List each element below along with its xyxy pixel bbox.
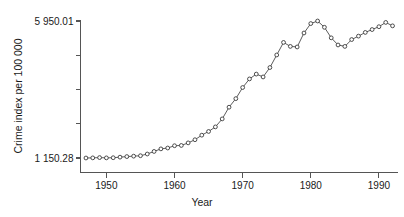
data-point-marker: [152, 150, 156, 154]
data-point-marker: [186, 141, 190, 145]
y-tick-label: 1 150.28: [35, 153, 74, 164]
data-point-marker: [295, 45, 299, 49]
data-point-marker: [261, 75, 265, 79]
data-point-marker: [282, 41, 286, 45]
data-point-marker: [166, 146, 170, 150]
data-point-marker: [370, 28, 374, 32]
data-point-marker: [84, 156, 88, 160]
x-axis-title: Year: [191, 196, 213, 208]
data-point-marker: [111, 156, 115, 160]
data-point-marker: [91, 156, 95, 160]
data-point-marker: [357, 34, 361, 38]
data-point-marker: [254, 72, 258, 76]
data-point-marker: [268, 66, 272, 70]
data-point-marker: [329, 36, 333, 40]
data-point-marker: [179, 144, 183, 148]
x-axis-ticks: [106, 173, 379, 178]
data-point-marker: [302, 31, 306, 35]
data-point-marker: [343, 45, 347, 49]
data-point-marker: [200, 133, 204, 137]
data-point-marker: [377, 25, 381, 29]
y-axis-title: Crime index per 100 000: [12, 38, 24, 153]
y-tick-label: 5 950.01: [35, 16, 74, 27]
data-point-marker: [316, 19, 320, 23]
data-point-marker: [234, 97, 238, 101]
data-point-marker: [139, 154, 143, 158]
x-tick-label: 1990: [368, 180, 391, 191]
data-point-marker: [241, 86, 245, 90]
x-tick-label: 1950: [95, 180, 118, 191]
data-point-marker: [118, 155, 122, 159]
data-point-marker: [104, 156, 108, 160]
y-axis-tick-labels: 1 150.285 950.01: [35, 16, 74, 164]
data-point-marker: [220, 117, 224, 121]
data-point-marker: [275, 53, 279, 57]
data-point-marker: [132, 154, 136, 158]
y-axis-ticks: [76, 21, 81, 158]
data-point-marker: [336, 43, 340, 47]
line-chart-plot: 1 150.285 950.01 19501960197019801990 Ye…: [0, 0, 404, 217]
data-point-marker: [384, 21, 388, 25]
data-point-marker: [309, 22, 313, 26]
x-tick-label: 1970: [232, 180, 255, 191]
data-point-marker: [207, 130, 211, 134]
data-point-marker: [323, 25, 327, 29]
data-point-marker: [173, 144, 177, 148]
data-point-marker: [159, 147, 163, 151]
data-point-marker: [363, 31, 367, 35]
data-point-marker: [248, 77, 252, 81]
x-axis-tick-labels: 19501960197019801990: [95, 180, 390, 191]
crime-index-series-markers: [84, 19, 394, 160]
data-point-marker: [193, 138, 197, 142]
data-point-marker: [145, 152, 149, 156]
x-tick-label: 1960: [163, 180, 186, 191]
crime-index-series-line: [86, 21, 393, 158]
data-point-marker: [125, 155, 129, 159]
data-point-marker: [214, 125, 218, 129]
data-point-marker: [391, 24, 395, 28]
chart-figure: 1 150.285 950.01 19501960197019801990 Ye…: [0, 0, 404, 217]
x-tick-label: 1980: [300, 180, 323, 191]
data-point-marker: [227, 105, 231, 109]
data-point-marker: [98, 156, 102, 160]
data-point-marker: [288, 45, 292, 49]
data-point-marker: [350, 38, 354, 42]
